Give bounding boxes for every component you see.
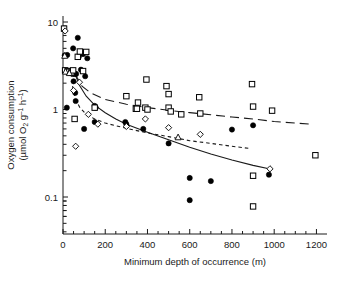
- marker-open-diamond: [73, 143, 79, 149]
- marker-open-square: [168, 109, 173, 114]
- marker-filled-circle: [187, 198, 192, 203]
- data-markers: [61, 26, 318, 209]
- y-tick-label-1: 1: [53, 104, 58, 115]
- axes-lines: [63, 16, 327, 234]
- x-tick-label-1000: 1000: [264, 239, 285, 250]
- marker-open-square: [145, 107, 150, 112]
- series-open-squares: [61, 26, 318, 209]
- marker-filled-circle: [71, 79, 76, 84]
- x-axis-major-ticks: [63, 229, 316, 234]
- x-tick-label-400: 400: [140, 239, 156, 250]
- marker-open-diamond: [166, 125, 172, 131]
- marker-open-diamond: [267, 166, 273, 172]
- marker-open-square: [124, 93, 129, 98]
- marker-open-triangle: [175, 134, 181, 140]
- marker-filled-circle: [208, 178, 213, 183]
- marker-filled-circle: [187, 175, 192, 180]
- series-open-triangles: [62, 53, 181, 140]
- series-filled-circles: [62, 35, 271, 203]
- marker-open-square: [313, 153, 318, 158]
- marker-filled-circle: [250, 123, 255, 128]
- marker-open-square: [250, 204, 255, 209]
- curve-long-dash-curve: [75, 73, 313, 124]
- marker-open-diamond: [142, 116, 148, 122]
- marker-open-square: [197, 95, 202, 100]
- curve-short-dash-curve: [73, 86, 249, 148]
- marker-open-square: [250, 173, 255, 178]
- marker-open-square: [164, 83, 169, 88]
- marker-open-square: [166, 91, 171, 96]
- scatter-plot: 1010.1 020040060080010001200 Minimum dep…: [0, 0, 348, 283]
- y-axis-label-unit-mid2: h: [17, 100, 28, 108]
- y-axis-label-unit-suffix: ): [17, 89, 28, 92]
- x-tick-label-1200: 1200: [306, 239, 327, 250]
- fitted-curves: [73, 73, 313, 169]
- marker-open-square: [92, 105, 97, 110]
- figure-container: 1010.1 020040060080010001200 Minimum dep…: [0, 0, 348, 283]
- y-axis-label-unit-mid: g: [17, 115, 28, 123]
- x-axis-tick-labels: 020040060080010001200: [60, 239, 327, 250]
- marker-filled-circle: [166, 141, 171, 146]
- series-open-diamonds: [62, 28, 273, 172]
- y-axis-label-group: Oxygen consumption (µmol O2 g–1 h–1): [5, 80, 29, 169]
- marker-open-square: [250, 104, 255, 109]
- marker-open-square: [80, 68, 85, 73]
- marker-open-square: [72, 116, 77, 121]
- y-axis-label-unit-prefix: (µmol O: [17, 127, 28, 161]
- marker-filled-circle: [229, 127, 234, 132]
- y-tick-label-0.1: 0.1: [45, 192, 58, 203]
- x-tick-label-600: 600: [182, 239, 198, 250]
- marker-open-square: [77, 49, 82, 54]
- marker-filled-circle: [64, 105, 69, 110]
- x-tick-label-200: 200: [97, 239, 113, 250]
- marker-filled-circle: [266, 172, 271, 177]
- x-tick-label-800: 800: [224, 239, 240, 250]
- marker-open-square: [135, 100, 140, 105]
- y-tick-label-10: 10: [47, 17, 58, 28]
- marker-open-square: [198, 111, 203, 116]
- y-axis-label-line1: Oxygen consumption: [5, 80, 16, 169]
- marker-filled-circle: [75, 35, 80, 40]
- marker-filled-circle: [71, 46, 76, 51]
- marker-open-square: [84, 49, 89, 54]
- marker-filled-circle: [73, 98, 78, 103]
- marker-filled-circle: [141, 126, 146, 131]
- x-axis-label: Minimum depth of occurrence (m): [124, 256, 266, 267]
- marker-open-square: [70, 68, 75, 73]
- marker-filled-circle: [83, 74, 88, 79]
- marker-open-square: [249, 81, 254, 86]
- marker-open-square: [269, 108, 274, 113]
- marker-open-square: [179, 112, 184, 117]
- marker-open-square: [75, 54, 80, 59]
- marker-filled-circle: [82, 126, 87, 131]
- marker-open-diamond: [85, 111, 91, 117]
- marker-filled-circle: [85, 56, 90, 61]
- y-axis-tick-labels: 1010.1: [45, 17, 58, 203]
- marker-open-square: [134, 106, 139, 111]
- marker-open-square: [144, 77, 149, 82]
- marker-open-diamond: [197, 131, 203, 137]
- y-axis-label-line2: (µmol O2 g–1 h–1): [17, 89, 29, 160]
- x-tick-label-0: 0: [60, 239, 65, 250]
- curve-solid-curve: [75, 73, 269, 169]
